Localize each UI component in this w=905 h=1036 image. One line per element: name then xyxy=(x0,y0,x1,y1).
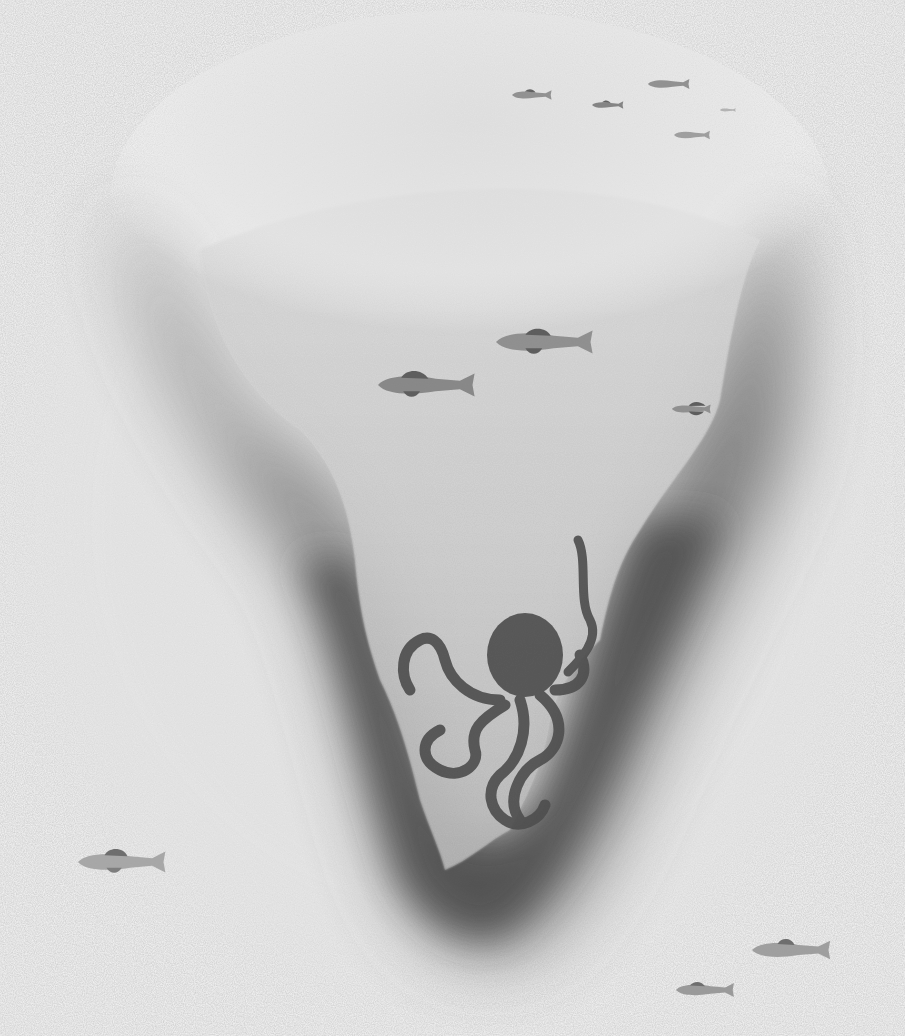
illustration: Underwater trench with fish and octopus xyxy=(0,0,905,1036)
artwork-canvas xyxy=(0,0,905,1036)
paper-grain xyxy=(0,0,905,1036)
